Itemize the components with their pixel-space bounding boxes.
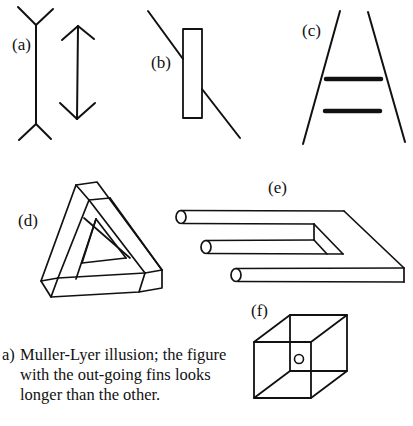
figure-d-penrose-triangle: (d)	[18, 182, 162, 297]
figure-c-label: (c)	[302, 21, 321, 40]
figure-e-label: (e)	[268, 178, 287, 197]
dot-marker	[295, 355, 304, 364]
ingoing-fins-arrow	[60, 26, 95, 119]
caption-marker: a)	[2, 345, 15, 365]
caption: a) Muller-Lyer illusion; the figure with…	[2, 345, 242, 405]
figure-a-label: (a)	[12, 35, 31, 54]
diagonal-upper	[148, 11, 183, 59]
figure-e-impossible-fork: (e)	[176, 178, 404, 282]
outgoing-fins-line	[18, 7, 53, 140]
diagonal-lower	[202, 89, 240, 138]
figure-b-poggendorff: (b)	[148, 11, 240, 138]
figure-f-label: (f)	[251, 301, 268, 320]
figure-f-necker-cube: (f)	[251, 301, 347, 398]
caption-text: Muller-Lyer illusion; the figure with th…	[2, 345, 242, 405]
figure-b-label: (b)	[151, 53, 171, 72]
figure-c-ponzo: (c)	[302, 11, 405, 144]
occluding-rectangle	[183, 29, 202, 118]
figure-a-muller-lyer: (a)	[12, 7, 95, 140]
figure-d-label: (d)	[18, 211, 38, 230]
